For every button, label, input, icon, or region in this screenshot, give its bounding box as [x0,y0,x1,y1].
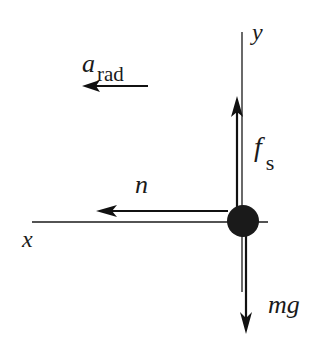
normal-force-vector: n [96,170,228,217]
weight-label: mg [268,290,300,319]
free-body-diagram: y x arad fs n mg [0,0,311,350]
body-particle [227,205,259,237]
radial-acceleration-label: arad [82,49,124,86]
normal-force-label: n [135,170,148,199]
radial-acceleration-vector: arad [82,49,148,92]
x-axis-label: x [21,226,33,252]
y-axis-label: y [250,19,263,45]
weight-vector: mg [240,232,300,334]
static-friction-label: fs [254,131,274,175]
static-friction-vector: fs [231,96,274,208]
